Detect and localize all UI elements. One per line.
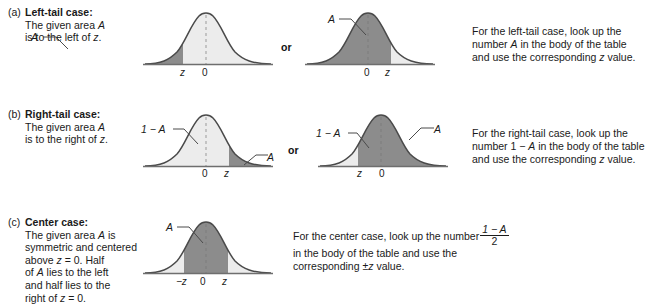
fraction-denominator: 2 [480, 235, 508, 247]
axis-label-c1-zero: 0 [200, 276, 206, 287]
right-tail-instruction-line1: For the right-tail case, look up the [472, 127, 628, 139]
left-tail-instruction-line1: For the left-tail case, look up the [472, 25, 621, 37]
leader-line-b1-right [243, 153, 271, 167]
axis-label-b1-z: z [224, 168, 229, 179]
leader-line-b2-right [408, 126, 436, 142]
right-tail-instruction-line3: and use the corresponding z value. [472, 153, 635, 165]
axis-label-a1-z: z [180, 67, 185, 78]
right-tail-desc-line2: is to the right of z. [25, 133, 108, 145]
axis-label-b2-zero: 0 [379, 168, 385, 179]
center-desc-line4: of A lies to the left [25, 266, 109, 278]
center-case-heading: Center case: [25, 216, 88, 228]
center-case-description: (c) Center case: The given area A is sym… [8, 216, 158, 304]
or-label-b: or [288, 144, 299, 156]
section-tag-b: (b) [8, 108, 21, 121]
chart-center-case [143, 217, 273, 279]
right-tail-case-row: (b) Right-tail case: The given area A is… [0, 100, 657, 197]
axis-label-b2-z: z [357, 168, 362, 179]
section-tag-a: (a) [8, 6, 21, 19]
center-desc-line3: above z = 0. Half [25, 254, 104, 266]
or-label-a: or [281, 41, 292, 53]
shaded-area-light [391, 8, 435, 70]
leader-line-b1-left [172, 126, 204, 146]
left-tail-instruction: For the left-tail case, look up the numb… [472, 25, 652, 63]
shaded-area-light [183, 8, 273, 70]
area-label-a2: A [328, 13, 335, 25]
fraction-numerator: 1 − A [480, 224, 508, 235]
left-tail-case-row: (a) Left-tail case: The given area A is … [0, 0, 657, 100]
center-instruction-pre: For the center case, look up the number [293, 230, 479, 242]
right-tail-description: (b) Right-tail case: The given area A is… [8, 108, 163, 146]
center-instruction-line2: in the body of the table and use the [293, 247, 457, 259]
left-tail-heading: Left-tail case: [25, 6, 93, 18]
leader-line-a2 [338, 16, 372, 38]
complement-label-b1: 1 − A [141, 123, 165, 135]
center-instruction-line3: corresponding ±z value. [293, 260, 404, 272]
axis-label-a2-z: z [385, 67, 390, 78]
axis-label-c1-negz: −z [176, 276, 187, 287]
section-tag-c: (c) [8, 216, 20, 229]
axis-label-a2-zero: 0 [364, 67, 370, 78]
left-tail-instruction-line3: and use the corresponding z value. [472, 51, 635, 63]
leader-line-c1 [176, 224, 208, 246]
leader-line-a1 [42, 34, 74, 52]
left-tail-instruction-line2: number A in the body of the table [472, 38, 627, 50]
left-tail-desc-line1: The given area A [25, 19, 105, 31]
right-tail-heading: Right-tail case: [25, 108, 100, 120]
center-desc-line6: right of z = 0. [25, 292, 86, 304]
complement-label-b2: 1 − A [316, 127, 340, 139]
right-tail-desc-line1: The given area A [25, 121, 105, 133]
center-desc-line1: The given area A is [25, 229, 115, 241]
axis-label-b1-zero: 0 [202, 168, 208, 179]
axis-label-a1-zero: 0 [202, 67, 208, 78]
center-case-row: (c) Center case: The given area A is sym… [0, 197, 657, 307]
fraction-one-minus-a-over-two: 1 − A2 [480, 224, 508, 247]
area-label-a1: A [31, 31, 38, 43]
right-tail-instruction: For the right-tail case, look up the num… [472, 127, 657, 165]
area-label-c1: A [166, 221, 173, 233]
center-desc-line5: and half lies to the [25, 279, 110, 291]
center-desc-line2: symmetric and centered [25, 241, 137, 253]
axis-label-c1-z: z [222, 276, 227, 287]
chart-left-tail-1 [143, 8, 273, 70]
center-case-instruction: For the center case, look up the number1… [293, 224, 653, 273]
right-tail-instruction-line2: number 1 − A in the body of the table [472, 140, 645, 152]
leader-line-b2-left [347, 130, 373, 150]
